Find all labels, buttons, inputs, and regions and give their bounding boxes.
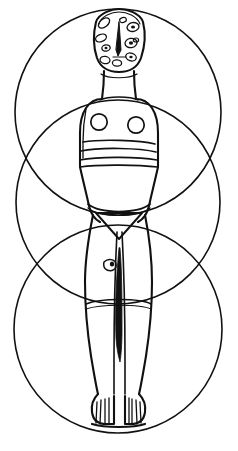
cheek-dot-3-center: [105, 47, 108, 49]
drawing-canvas: Cycladic figurine with circle constructi…: [0, 0, 238, 451]
cheek-dot-5-center: [129, 56, 132, 59]
left-eye-pupil: [129, 41, 133, 44]
figurine-geometry-illustration: [0, 0, 238, 451]
right-eye-pupil: [131, 25, 135, 28]
thigh-oval-center: [110, 261, 114, 266]
